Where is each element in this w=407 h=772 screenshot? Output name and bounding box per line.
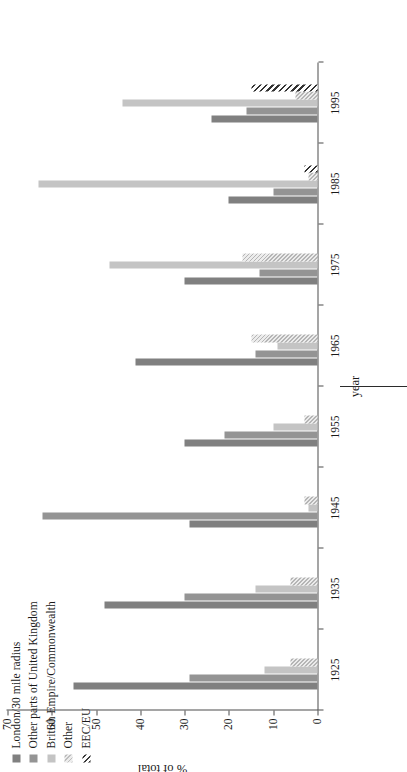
bar [224,431,317,438]
bar [211,115,317,122]
x-tick [318,142,323,143]
bar [259,269,317,276]
bar [251,84,317,91]
x-tick-label: 1935 [329,577,341,600]
bar [184,593,317,600]
bar [290,577,317,584]
bar [277,342,317,349]
legend-swatch-eec [82,754,90,762]
y-tick-label: 50 [90,718,102,744]
x-tick [318,466,323,467]
x-tick-label: 1995 [329,91,341,114]
chart-page: London/30 mile radius Other parts of Uni… [0,0,407,772]
x-tick-label: 1975 [329,253,341,276]
bar [104,601,317,608]
bar [184,277,317,284]
bar [308,172,317,179]
bar [273,188,317,195]
bar [184,439,317,446]
bar [189,674,317,681]
bar [228,196,317,203]
legend-swatch-london [12,754,20,762]
bar [255,350,317,357]
y-tick [51,710,52,715]
legend-swatch-other-uk [29,754,37,762]
bar [304,496,317,503]
x-tick-label: 1955 [329,415,341,438]
legend-swatch-other [64,754,72,762]
plot-inner: 010203040506070 192519351945195519651975… [6,62,318,710]
bar [304,165,317,172]
x-tick [318,709,323,710]
y-tick-label: 40 [134,718,146,744]
x-tick [318,547,323,548]
y-tick [228,710,229,715]
bar [255,585,317,592]
x-tick [318,628,323,629]
y-tick-label: 10 [267,718,279,744]
legend-label-other: Other [62,721,74,748]
y-tick [273,710,274,715]
bar [295,91,317,98]
plot-area: 010203040506070 192519351945195519651975… [6,62,318,710]
bar [42,512,317,519]
y-axis-line [6,709,318,710]
y-tick-label: 20 [222,718,234,744]
y-tick-label: 0 [311,718,323,744]
y-tick-label: 70 [1,718,13,744]
bar [290,658,317,665]
bar [109,261,317,268]
y-axis-label: % of total [137,761,186,772]
bar [264,666,317,673]
bar [304,415,317,422]
bar [242,253,317,260]
x-tick-label: 1985 [329,172,341,195]
x-tick [318,385,323,386]
x-tick [318,223,323,224]
y-tick [96,710,97,715]
y-tick [140,710,141,715]
y-tick-label: 30 [178,718,190,744]
bar [38,180,317,187]
bar [308,504,317,511]
bar [189,520,317,527]
x-tick [318,304,323,305]
bar [135,358,317,365]
x-tick [318,61,323,62]
bar [251,334,317,341]
bar [122,99,317,106]
bar [273,423,317,430]
x-tick-label: 1945 [329,496,341,519]
figure-rule [340,386,407,387]
y-tick [317,710,318,715]
x-tick-label: 1965 [329,334,341,357]
legend-swatch-empire [47,754,55,762]
bar [246,107,317,114]
y-tick [7,710,8,715]
bar [73,682,317,689]
y-tick [184,710,185,715]
y-tick-label: 60 [45,718,57,744]
x-tick-label: 1925 [329,658,341,681]
